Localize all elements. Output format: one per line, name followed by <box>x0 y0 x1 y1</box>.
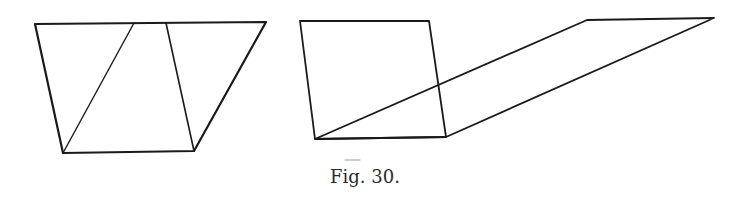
right-parallelogram-outline <box>315 18 714 139</box>
left-parallelogram-outline <box>35 22 266 153</box>
left-diagonal-line-2 <box>166 23 194 151</box>
right-figure <box>300 18 714 160</box>
left-diagonal-line-1 <box>63 23 134 153</box>
left-figure <box>35 22 266 153</box>
figure-caption: Fig. 30. <box>0 166 730 187</box>
right-square-outline <box>300 21 446 139</box>
